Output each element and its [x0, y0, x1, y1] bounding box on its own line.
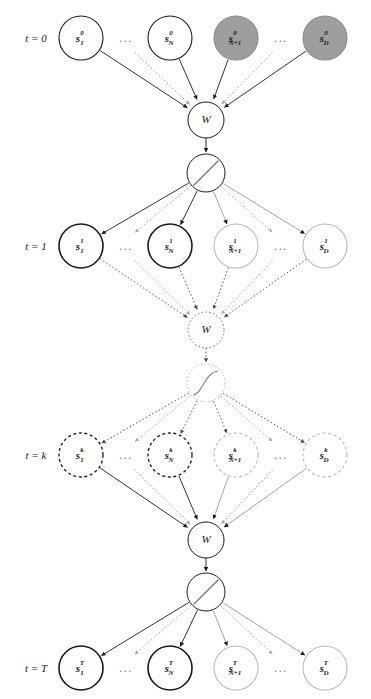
- state-node[interactable]: s0N+1: [214, 16, 258, 60]
- edge-state-to-weight: [179, 59, 197, 99]
- state-node[interactable]: s1N+1: [214, 224, 258, 268]
- state-node-superscript: T: [169, 659, 174, 667]
- state-node-circle: [148, 16, 192, 60]
- row-ellipsis: ...: [119, 239, 133, 253]
- state-node[interactable]: s01: [59, 16, 103, 60]
- state-node-superscript: 0: [80, 29, 84, 37]
- state-node-subscript: N: [167, 456, 174, 464]
- row-ellipsis: ...: [274, 239, 288, 253]
- state-node-superscript: T: [233, 659, 238, 667]
- state-node-superscript: k: [324, 446, 328, 454]
- row-ellipsis: ...: [119, 31, 133, 45]
- edge-state-to-weight: [179, 476, 197, 519]
- state-node-circle: [148, 646, 192, 690]
- state-node-superscript: T: [80, 659, 85, 667]
- row-ellipsis: ...: [274, 31, 288, 45]
- state-node[interactable]: s0N: [148, 16, 192, 60]
- edge-activation-to-state: [181, 401, 197, 434]
- state-node-circle: [303, 646, 347, 690]
- state-node-subscript: N: [167, 669, 174, 677]
- time-step-label: t = 1: [25, 240, 46, 252]
- edge-activation-to-state: [213, 611, 227, 646]
- activation-node[interactable]: [187, 573, 225, 611]
- state-node-subscript: 1: [80, 669, 84, 677]
- activation-node[interactable]: [187, 364, 225, 402]
- state-node[interactable]: sT1: [59, 646, 103, 690]
- state-node[interactable]: skN+1: [214, 433, 258, 477]
- state-node-superscript: 1: [169, 237, 173, 245]
- time-step-label: t = T: [25, 662, 48, 674]
- state-node-subscript: 1: [80, 39, 84, 47]
- edge-state-to-weight: [179, 267, 197, 309]
- state-node-subscript: N+1: [228, 456, 242, 464]
- activation-node[interactable]: [187, 154, 225, 192]
- state-node-superscript: 0: [169, 29, 173, 37]
- state-node-superscript: k: [80, 446, 84, 454]
- state-node-subscript: D: [322, 456, 328, 464]
- state-node-circle: [214, 224, 258, 268]
- state-node-subscript: 1: [80, 456, 84, 464]
- diagram-canvas: WWW s01s0Ns0N+1s0D......s11s1Ns1N+1s1D..…: [0, 0, 371, 699]
- edges-layer: [100, 51, 306, 656]
- activation-node-circle: [187, 364, 225, 402]
- state-node-superscript: T: [324, 659, 329, 667]
- state-node-subscript: N: [167, 39, 174, 47]
- state-node[interactable]: s11: [59, 224, 103, 268]
- weight-node[interactable]: W: [188, 102, 224, 138]
- state-node-subscript: N+1: [228, 39, 242, 47]
- state-node-superscript: 1: [80, 237, 84, 245]
- state-node-subscript: D: [322, 247, 328, 255]
- edge-state-to-weight: [213, 477, 228, 519]
- weight-node-label: W: [201, 113, 211, 125]
- weight-node[interactable]: W: [188, 312, 224, 348]
- row-ellipsis: ...: [119, 661, 133, 675]
- state-node[interactable]: s0D: [303, 16, 347, 60]
- time-labels-layer: t = 0t = 1t = kt = T: [25, 32, 48, 674]
- state-node-subscript: N+1: [228, 669, 242, 677]
- state-node-superscript: 0: [233, 29, 237, 37]
- weight-node-label: W: [201, 533, 211, 545]
- state-node-circle: [59, 224, 103, 268]
- state-node-superscript: 1: [324, 237, 328, 245]
- row-ellipsis: ...: [274, 448, 288, 462]
- edge-state-to-weight: [214, 60, 228, 99]
- state-node[interactable]: s1N: [148, 224, 192, 268]
- time-step-label: t = 0: [25, 32, 47, 44]
- state-node[interactable]: s1D: [303, 224, 347, 268]
- unrolled-network-diagram: WWW s01s0Ns0N+1s0D......s11s1Ns1N+1s1D..…: [0, 0, 371, 699]
- state-node-circle: [214, 646, 258, 690]
- state-node[interactable]: sk1: [59, 433, 103, 477]
- row-ellipsis: ...: [274, 661, 288, 675]
- weight-node[interactable]: W: [188, 522, 224, 558]
- state-node[interactable]: skD: [303, 433, 347, 477]
- state-node-circle: [59, 646, 103, 690]
- state-node-circle: [303, 433, 347, 477]
- edge-activation-to-state: [214, 401, 227, 432]
- state-node-superscript: k: [233, 446, 237, 454]
- state-node-superscript: 1: [233, 237, 237, 245]
- edge-ellipsis-to-weight: [222, 261, 273, 314]
- state-node-circle: [59, 16, 103, 60]
- state-node-circle: [214, 16, 258, 60]
- state-node-superscript: 0: [324, 29, 328, 37]
- state-node-superscript: k: [169, 446, 173, 454]
- state-node[interactable]: sTN+1: [214, 646, 258, 690]
- state-node-subscript: 1: [80, 247, 84, 255]
- state-node[interactable]: skN: [148, 433, 192, 477]
- state-node-circle: [303, 224, 347, 268]
- state-node-circle: [148, 433, 192, 477]
- state-node[interactable]: sTD: [303, 646, 347, 690]
- state-node[interactable]: sTN: [148, 646, 192, 690]
- state-node-circle: [59, 433, 103, 477]
- edge-ellipsis-to-weight: [135, 260, 190, 314]
- state-node-subscript: N+1: [228, 247, 242, 255]
- edge-ellipsis-to-weight: [222, 53, 273, 104]
- weight-node-label: W: [201, 323, 211, 335]
- state-node-circle: [148, 224, 192, 268]
- state-node-circle: [303, 16, 347, 60]
- edge-activation-to-state: [180, 610, 197, 646]
- state-node-subscript: N: [167, 247, 174, 255]
- edge-state-to-weight: [214, 268, 229, 309]
- edge-ellipsis-to-weight: [221, 470, 272, 524]
- edge-activation-to-state: [181, 191, 198, 225]
